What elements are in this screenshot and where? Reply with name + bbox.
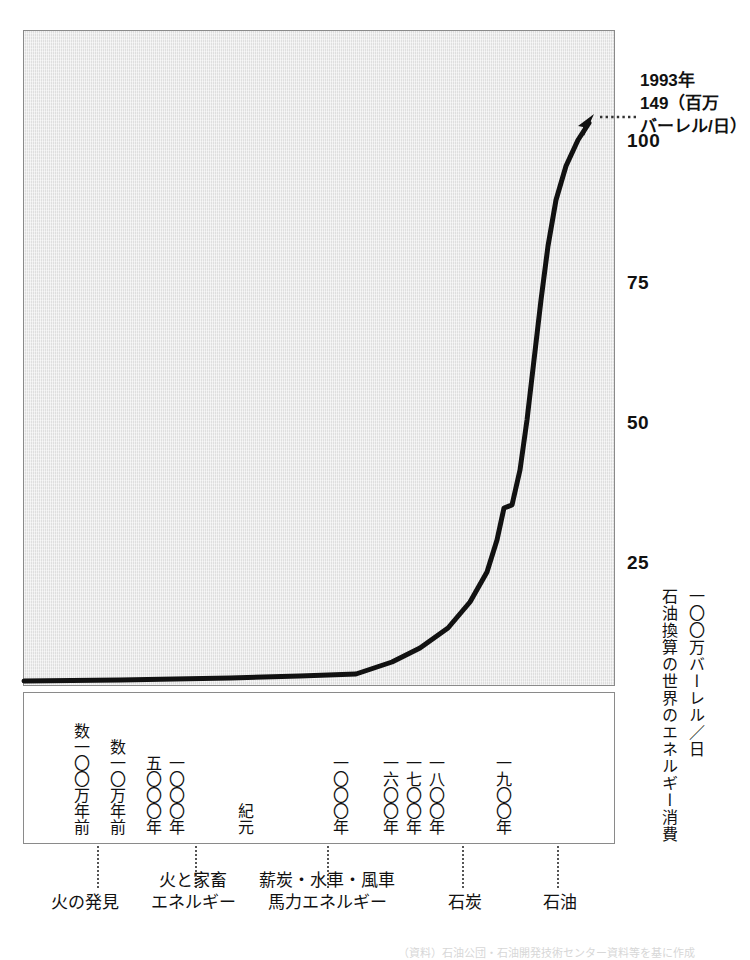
callout-value: 149（百万 bbox=[640, 93, 747, 116]
callout-unit: バーレル/日） bbox=[640, 116, 747, 139]
era-label-0: 数一〇〇万年前 bbox=[72, 723, 88, 835]
y-axis-unit-title: 一〇〇万バーレル／日 bbox=[686, 588, 703, 758]
era-label-1: 数一〇万年前 bbox=[108, 739, 124, 835]
era-label-4: 紀元 bbox=[236, 803, 252, 835]
source-caption-oil-line2: 石油 bbox=[543, 892, 577, 914]
connector-line-oil bbox=[557, 846, 559, 888]
source-caption-coal-line2: 石炭 bbox=[448, 892, 482, 914]
y-tick-label-75: 75 bbox=[627, 272, 649, 294]
connector-line-fire bbox=[97, 846, 99, 888]
endpoint-callout: 1993年 149（百万 バーレル/日） bbox=[640, 70, 747, 139]
source-caption-livestock-line1: 火と家畜 bbox=[151, 870, 236, 892]
era-label-7: 一七〇〇年 bbox=[404, 755, 420, 835]
y-axis-title: 石油換算の世界のエネルギー消費 bbox=[659, 588, 676, 843]
source-caption-oil: 石油 bbox=[543, 892, 577, 914]
era-label-3: 一〇〇〇年 bbox=[167, 755, 183, 835]
y-tick-label-25: 25 bbox=[627, 552, 649, 574]
y-tick-label-50: 50 bbox=[627, 412, 649, 434]
era-label-9: 一九〇〇年 bbox=[494, 755, 510, 835]
source-caption-livestock-line2: エネルギー bbox=[151, 892, 236, 914]
source-caption-livestock: 火と家畜 エネルギー bbox=[151, 870, 236, 914]
source-caption-biomass-line2: 馬力エネルギー bbox=[259, 892, 395, 914]
connector-line-coal bbox=[462, 846, 464, 888]
era-label-8: 一八〇〇年 bbox=[427, 755, 443, 835]
source-caption-coal: 石炭 bbox=[448, 892, 482, 914]
source-caption-fire-line2: 火の発見 bbox=[51, 892, 119, 914]
era-label-2: 五〇〇〇年 bbox=[144, 755, 160, 835]
source-caption-biomass: 薪炭・水車・風車 馬力エネルギー bbox=[259, 870, 395, 914]
era-label-6: 一六〇〇年 bbox=[381, 755, 397, 835]
era-label-box: 数一〇〇万年前 数一〇万年前 五〇〇〇年 一〇〇〇年 紀元 一〇〇〇年 一六〇〇… bbox=[23, 692, 615, 844]
callout-year: 1993年 bbox=[640, 70, 747, 93]
era-label-5: 一〇〇〇年 bbox=[331, 755, 347, 835]
source-caption-biomass-line1: 薪炭・水車・風車 bbox=[259, 870, 395, 892]
plot-area bbox=[23, 30, 615, 686]
source-credit: （資料）石油公団・石油開発技術センター資料等を基に作成 bbox=[398, 944, 695, 960]
source-caption-fire: 火の発見 bbox=[51, 892, 119, 914]
